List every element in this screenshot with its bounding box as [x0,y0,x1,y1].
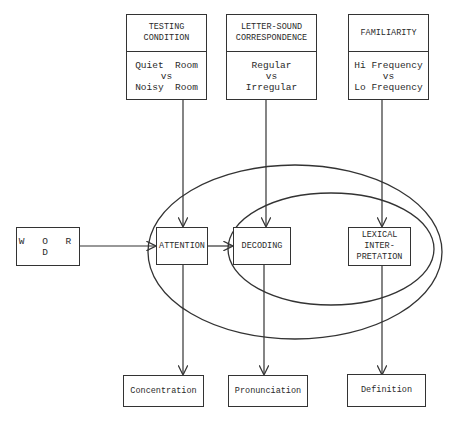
lexical-label-line: INTER- [364,241,395,252]
level-a: Quiet Room [135,60,198,71]
factor-testing-condition: TESTING CONDITION Quiet Room vs Noisy Ro… [126,14,207,100]
decoding-box: DECODING [233,227,291,265]
level-vs: vs [383,71,394,82]
word-label: W O R D [17,236,79,258]
heading-line: TESTING [149,22,185,33]
definition-box: Definition [347,374,426,407]
attention-label: ATTENTION [159,241,205,252]
lexical-label-line: LEXICAL [362,230,398,241]
level-a: Regular [252,60,292,71]
factor-levels: Hi Frequency vs Lo Frequency [349,52,428,100]
heading-line: CONDITION [144,33,190,44]
lexical-label-line: PRETATION [357,252,403,263]
level-vs: vs [266,71,277,82]
concentration-label: Concentration [130,386,196,397]
lexical-interpretation-box: LEXICAL INTER- PRETATION [348,227,411,266]
level-b: Lo Frequency [354,82,422,93]
attention-box: ATTENTION [156,227,208,265]
heading-line: LETTER-SOUND [241,22,302,33]
level-b: Noisy Room [135,82,198,93]
factor-heading: TESTING CONDITION [127,15,206,52]
factor-familiarity: FAMILIARITY Hi Frequency vs Lo Frequency [348,14,429,100]
factor-letter-sound: LETTER-SOUND CORRESPONDENCE Regular vs I… [226,14,317,100]
heading-line: FAMILIARITY [360,28,416,39]
decoding-label: DECODING [242,241,283,252]
pronunciation-box: Pronunciation [228,375,308,407]
word-box: W O R D [16,227,80,266]
heading-line: CORRESPONDENCE [236,33,307,44]
factor-heading: LETTER-SOUND CORRESPONDENCE [227,15,316,52]
definition-label: Definition [361,385,412,396]
level-vs: vs [161,71,172,82]
factor-levels: Regular vs Irregular [227,52,316,100]
level-b: Irregular [246,82,297,93]
level-a: Hi Frequency [354,60,422,71]
concentration-box: Concentration [123,375,204,407]
pronunciation-label: Pronunciation [235,386,301,397]
factor-heading: FAMILIARITY [349,15,428,52]
factor-levels: Quiet Room vs Noisy Room [127,52,206,100]
